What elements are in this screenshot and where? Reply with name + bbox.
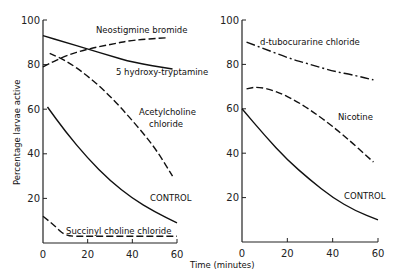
series-label-nicotine: Nicotine: [338, 112, 373, 122]
left-panel: 204060801000204060: [21, 15, 183, 261]
series-line: [43, 38, 166, 67]
x-axis-label: Time (minutes): [189, 260, 255, 270]
y-tick-label: 100: [21, 15, 40, 26]
x-tick-label: 40: [326, 248, 339, 259]
series-label-hydroxy: 5 hydroxy-tryptamine: [116, 67, 208, 77]
y-tick-label: 20: [27, 193, 40, 204]
series-label-acetylcholine: Acetylcholine: [139, 107, 196, 117]
y-tick-label: 20: [226, 192, 239, 203]
x-tick-label: 60: [372, 248, 385, 259]
series-line: [242, 109, 378, 220]
y-tick-label: 100: [220, 15, 239, 26]
x-tick-label: 0: [239, 248, 245, 259]
x-tick-label: 20: [281, 248, 294, 259]
series-label-tubocurarine: d-tubocurarine chloride: [260, 37, 360, 47]
x-tick-label: 60: [171, 249, 184, 260]
y-tick-label: 40: [226, 148, 239, 159]
series-label-succinyl: Succinyl choline chloride: [66, 226, 171, 236]
series-label-acetylcholine-2: chloride: [149, 119, 183, 129]
y-axis-label: Percentage larvae active: [12, 79, 22, 185]
y-tick-label: 80: [27, 59, 40, 70]
x-tick-label: 40: [126, 249, 139, 260]
series-line: [247, 87, 374, 162]
x-tick-label: 20: [81, 249, 94, 260]
series-label-control-left: CONTROL: [150, 193, 192, 203]
y-tick-label: 60: [226, 103, 239, 114]
right-panel: 204060801000204060: [220, 15, 384, 260]
y-tick-label: 80: [226, 59, 239, 70]
series-label-neostigmine: Neostigmine bromide: [96, 25, 187, 35]
y-tick-label: 40: [27, 148, 40, 159]
y-tick-label: 60: [27, 104, 40, 115]
series-line: [247, 42, 374, 80]
x-tick-label: 0: [40, 249, 46, 260]
chart: 204060801000204060 204060801000204060 Ne…: [0, 0, 396, 277]
series-label-control-right: CONTROL: [344, 191, 386, 201]
series-line: [43, 36, 173, 69]
